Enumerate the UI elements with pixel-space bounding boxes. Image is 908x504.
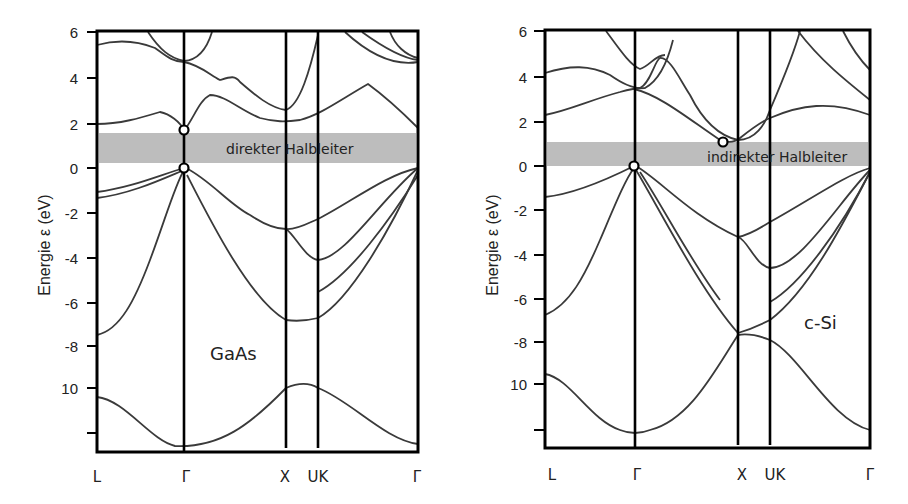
y-tick-label: 4 xyxy=(70,70,78,87)
y-tick-label: -4 xyxy=(514,247,527,264)
y-tick-label: 10 xyxy=(510,376,527,393)
valence-max-marker xyxy=(630,162,639,171)
y-tick-label: -2 xyxy=(65,205,78,222)
k-label: L xyxy=(548,466,557,484)
k-label: Γ xyxy=(633,466,642,484)
y-axis-label: Energie ε (eV) xyxy=(484,194,501,295)
k-label: UK xyxy=(765,466,787,484)
conduction-min-marker xyxy=(180,126,189,135)
band-structure-figure: 6 4 2 0 -2 -4 -6 -8 10 Energie ε (eV) xyxy=(0,0,908,504)
valence-max-marker xyxy=(180,164,189,173)
k-label: X xyxy=(280,468,290,486)
y-tick-label: -8 xyxy=(65,338,78,355)
y-tick-label: -6 xyxy=(514,291,527,308)
y-tick-label: 6 xyxy=(519,23,527,40)
y-tick-label: -4 xyxy=(65,250,78,267)
y-axis: 6 4 2 0 -2 -4 -6 -8 10 Energie ε (eV) xyxy=(36,24,97,433)
si-panel: 6 4 2 0 -2 -4 -6 -8 10 Energie ε (eV) xyxy=(484,23,875,484)
gap-type-label: indirekter Halbleiter xyxy=(707,149,847,165)
y-tick-label: 10 xyxy=(61,380,78,397)
k-label: Γ xyxy=(866,466,875,484)
gaas-panel: 6 4 2 0 -2 -4 -6 -8 10 Energie ε (eV) xyxy=(36,24,422,486)
k-label: Γ xyxy=(413,468,422,486)
k-label: Γ xyxy=(182,468,191,486)
material-label: GaAs xyxy=(210,343,257,364)
plot-frame xyxy=(545,30,870,448)
y-tick-label: 2 xyxy=(519,114,527,131)
y-tick-label: -8 xyxy=(514,334,527,351)
y-tick-label: -2 xyxy=(514,202,527,219)
si-bands xyxy=(545,31,870,433)
y-axis: 6 4 2 0 -2 -4 -6 -8 10 Energie ε (eV) xyxy=(484,23,545,430)
k-label: X xyxy=(737,466,747,484)
y-tick-label: 2 xyxy=(70,116,78,133)
y-tick-label: -6 xyxy=(65,295,78,312)
material-label: c-Si xyxy=(804,312,837,333)
y-tick-label: 6 xyxy=(70,24,78,41)
y-tick-label: 0 xyxy=(70,160,78,177)
k-label: UK xyxy=(308,468,330,486)
y-axis-label: Energie ε (eV) xyxy=(36,194,53,295)
gaas-bands xyxy=(97,32,418,446)
gap-type-label: direkter Halbleiter xyxy=(226,141,354,157)
plot-frame xyxy=(97,31,418,452)
y-tick-label: 4 xyxy=(519,69,527,86)
k-label: L xyxy=(93,468,102,486)
y-tick-label: 0 xyxy=(519,158,527,175)
conduction-min-marker xyxy=(719,138,728,147)
